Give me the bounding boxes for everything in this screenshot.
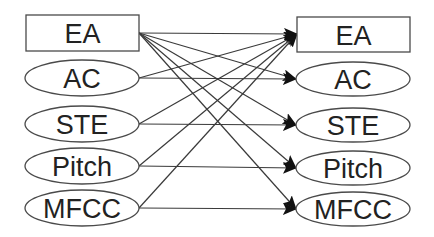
- right-node-ea: EA: [297, 17, 410, 52]
- edge-l-pitch-to-r-pitch: [139, 166, 296, 168]
- edge-l-ea-to-r-ea: [139, 33, 297, 34]
- edge-l-ste-to-r-ste: [139, 124, 296, 125]
- node-label: EA: [64, 19, 100, 49]
- node-label: Pitch: [323, 154, 383, 184]
- node-label: Pitch: [52, 152, 112, 182]
- right-node-ac: AC: [296, 62, 410, 96]
- feature-graph-diagram: EAACSTEPitchMFCC EAACSTEPitchMFCC: [0, 0, 434, 237]
- left-node-mfcc: MFCC: [25, 190, 139, 226]
- right-node-pitch: Pitch: [296, 151, 410, 185]
- node-label: MFCC: [314, 195, 392, 225]
- left-node-ea: EA: [26, 15, 139, 51]
- edge-l-mfcc-to-r-mfcc: [139, 208, 296, 209]
- node-label: AC: [334, 65, 372, 95]
- left-node-ste: STE: [25, 106, 139, 142]
- left-node-column: EAACSTEPitchMFCC: [25, 15, 139, 226]
- node-label: STE: [56, 110, 109, 140]
- node-label: EA: [335, 21, 371, 51]
- right-node-ste: STE: [296, 108, 410, 142]
- right-node-column: EAACSTEPitchMFCC: [296, 17, 410, 226]
- edge-l-ac-to-r-ea: [139, 34, 297, 78]
- left-node-pitch: Pitch: [25, 148, 139, 184]
- node-label: AC: [63, 64, 101, 94]
- left-node-ac: AC: [25, 60, 139, 96]
- edges-layer: [139, 33, 297, 209]
- node-label: STE: [327, 111, 380, 141]
- node-label: MFCC: [43, 194, 121, 224]
- right-node-mfcc: MFCC: [296, 192, 410, 226]
